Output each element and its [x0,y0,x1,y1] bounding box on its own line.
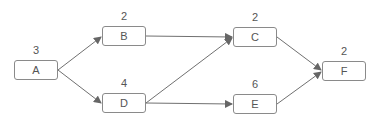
node-d[interactable]: D [102,93,146,113]
node-a-label: A [32,64,39,76]
node-d-label: D [120,97,128,109]
duration-a: 3 [14,44,58,56]
duration-b: 2 [102,10,146,22]
edge-d-e [146,103,232,104]
duration-e: 6 [233,78,277,90]
node-c-label: C [251,31,259,43]
edge-d-c [146,38,232,103]
node-b[interactable]: B [102,26,146,46]
edge-e-f [277,72,321,104]
duration-f: 2 [322,45,366,57]
node-f[interactable]: F [322,61,366,81]
duration-c: 2 [233,11,277,23]
edge-a-b [58,37,101,70]
node-a[interactable]: A [14,60,58,80]
edge-c-f [277,37,321,70]
duration-d: 4 [102,77,146,89]
node-e-label: E [251,98,258,110]
node-c[interactable]: C [233,27,277,47]
node-e[interactable]: E [233,94,277,114]
edge-a-d [58,70,101,103]
node-b-label: B [120,30,127,42]
edge-b-c [146,36,232,37]
node-f-label: F [341,65,348,77]
